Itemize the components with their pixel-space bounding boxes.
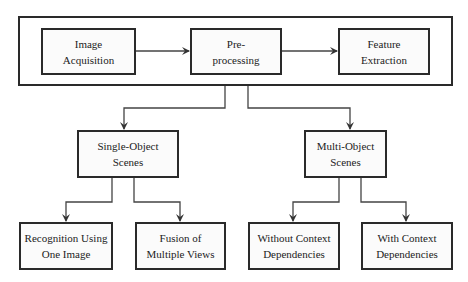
connector-lines <box>0 0 468 282</box>
arrow-to-multi <box>248 86 350 129</box>
arrow-to-single <box>124 86 225 129</box>
arrow-to-with <box>361 178 406 221</box>
arrow-to-fusion <box>134 178 180 221</box>
arrow-to-recognition <box>66 178 112 221</box>
arrow-to-without <box>293 178 339 221</box>
